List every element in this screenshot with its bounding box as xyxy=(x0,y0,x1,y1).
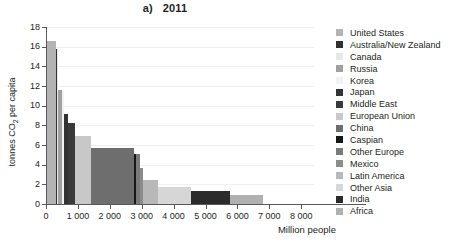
legend-item-label: Africa xyxy=(350,206,373,216)
legend-item-label: Canada xyxy=(350,52,382,62)
legend-item[interactable]: United States xyxy=(336,27,461,39)
legend-item[interactable]: Caspian xyxy=(336,134,461,146)
bar xyxy=(230,195,262,204)
x-axis-title: Million people xyxy=(226,225,336,235)
legend-item-label: United States xyxy=(350,28,404,38)
y-axis-tick-label: 16 xyxy=(12,42,40,51)
chart-figure: a) 2011 024681012141618 01 0002 0003 000… xyxy=(0,0,461,242)
y-axis-tick xyxy=(42,184,46,185)
legend-swatch-icon xyxy=(336,136,343,143)
legend-item[interactable]: Mexico xyxy=(336,158,461,170)
legend-item-label: Mexico xyxy=(350,159,379,169)
legend-swatch-icon xyxy=(336,29,343,36)
legend-item[interactable]: Australia/New Zealand xyxy=(336,39,461,51)
legend-item-label: Caspian xyxy=(350,135,383,145)
legend-item[interactable]: India xyxy=(336,193,461,205)
legend-item[interactable]: Other Europe xyxy=(336,146,461,158)
y-axis-tick xyxy=(42,86,46,87)
bar xyxy=(143,180,158,204)
legend-item[interactable]: Korea xyxy=(336,75,461,87)
legend-item[interactable]: Latin America xyxy=(336,170,461,182)
legend-swatch-icon xyxy=(336,160,343,167)
y-axis-tick xyxy=(42,106,46,107)
legend-item[interactable]: Africa xyxy=(336,205,461,217)
bar xyxy=(191,191,231,204)
y-axis-tick xyxy=(42,165,46,166)
legend-item[interactable]: Russia xyxy=(336,63,461,75)
y-axis-tick-label: 18 xyxy=(12,23,40,32)
x-axis-tick xyxy=(269,205,270,209)
legend-item[interactable]: Other Asia xyxy=(336,182,461,194)
legend-item-label: India xyxy=(350,194,370,204)
legend-swatch-icon xyxy=(336,41,343,48)
x-axis-tick xyxy=(301,205,302,209)
legend-item-label: Other Europe xyxy=(350,147,404,157)
y-axis-tick xyxy=(42,47,46,48)
y-axis-line xyxy=(46,27,47,205)
legend-item-label: Australia/New Zealand xyxy=(350,40,441,50)
legend-item-label: Japan xyxy=(350,87,375,97)
y-axis-tick xyxy=(42,125,46,126)
legend-item-label: Middle East xyxy=(350,99,397,109)
legend-item[interactable]: China xyxy=(336,122,461,134)
legend-item-label: China xyxy=(350,123,374,133)
legend-swatch-icon xyxy=(336,184,343,191)
x-axis-tick xyxy=(142,205,143,209)
legend-swatch-icon xyxy=(336,77,343,84)
x-axis-tick-label: 8 000 xyxy=(278,211,324,221)
x-axis-tick xyxy=(110,205,111,209)
legend-item[interactable]: European Union xyxy=(336,110,461,122)
x-axis-tick xyxy=(174,205,175,209)
legend-swatch-icon xyxy=(336,196,343,203)
legend-swatch-icon xyxy=(336,125,343,132)
legend-item[interactable]: Middle East xyxy=(336,98,461,110)
bar xyxy=(75,136,91,204)
legend-item[interactable]: Japan xyxy=(336,86,461,98)
legend-swatch-icon xyxy=(336,208,343,215)
legend-swatch-icon xyxy=(336,89,343,96)
y-axis-tick-label: 0 xyxy=(12,200,40,209)
bar xyxy=(46,41,56,204)
legend-item-label: Korea xyxy=(350,76,374,86)
bar xyxy=(158,187,191,204)
legend-item-label: Latin America xyxy=(350,171,405,181)
legend: United StatesAustralia/New ZealandCanada… xyxy=(336,27,461,217)
y-axis-title: tonnes CO2 per capita xyxy=(7,57,21,187)
y-axis-tick xyxy=(42,27,46,28)
plot-area xyxy=(46,27,314,204)
legend-swatch-icon xyxy=(336,53,343,60)
x-axis-tick xyxy=(46,205,47,209)
bars-container xyxy=(46,27,314,204)
legend-swatch-icon xyxy=(336,101,343,108)
y-axis-tick xyxy=(42,145,46,146)
bar xyxy=(68,123,75,204)
chart-title: a) 2011 xyxy=(0,2,330,14)
legend-swatch-icon xyxy=(336,113,343,120)
x-axis-tick xyxy=(206,205,207,209)
x-axis-tick xyxy=(237,205,238,209)
legend-item-label: Russia xyxy=(350,64,378,74)
legend-item-label: European Union xyxy=(350,111,415,121)
y-axis-tick xyxy=(42,66,46,67)
legend-swatch-icon xyxy=(336,172,343,179)
legend-swatch-icon xyxy=(336,148,343,155)
legend-item[interactable]: Canada xyxy=(336,51,461,63)
bar xyxy=(91,148,134,204)
x-axis-tick xyxy=(78,205,79,209)
legend-swatch-icon xyxy=(336,65,343,72)
legend-item-label: Other Asia xyxy=(350,183,392,193)
